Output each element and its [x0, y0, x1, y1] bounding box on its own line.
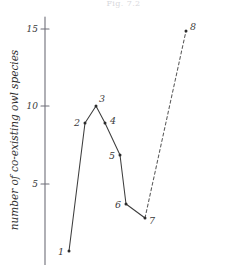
figure-canvas: Fig. 7.2 15 10 5 number of co-existing o… [0, 0, 247, 265]
data-point-label-7: 7 [149, 215, 156, 226]
y-tick-label-5: 5 [32, 179, 38, 189]
data-point-2 [84, 122, 87, 125]
data-point-label-6: 6 [115, 199, 121, 210]
data-point-label-5: 5 [109, 150, 115, 161]
y-tick-label-15: 15 [27, 24, 39, 34]
data-point-7 [144, 217, 147, 220]
data-point-1 [68, 250, 71, 253]
data-point-4 [104, 122, 107, 125]
owl-species-line-chart: 15 10 5 number of co-existing owl specie… [0, 0, 247, 265]
data-point-3 [95, 105, 98, 108]
data-point-label-3: 3 [99, 93, 105, 104]
data-point-label-1: 1 [58, 246, 64, 257]
series-solid-path [69, 106, 145, 251]
data-point-label-4: 4 [109, 115, 116, 126]
data-point-5 [119, 154, 122, 157]
data-point-label-2: 2 [73, 117, 80, 128]
y-axis-title: number of co-existing owl species [8, 49, 20, 230]
y-tick-label-10: 10 [27, 101, 39, 111]
data-point-8 [185, 30, 188, 33]
data-point-6 [125, 203, 128, 206]
series-dashed-path [145, 31, 186, 218]
data-point-label-8: 8 [190, 21, 196, 32]
